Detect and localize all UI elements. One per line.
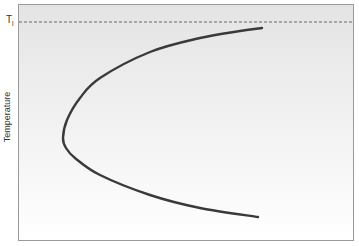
chart: Temperature Tl: [0, 0, 359, 246]
chart-svg: [0, 0, 359, 246]
t-label-sub: l: [12, 20, 14, 27]
t-line-label: Tl: [6, 14, 14, 27]
y-axis-label: Temperature: [2, 82, 12, 152]
